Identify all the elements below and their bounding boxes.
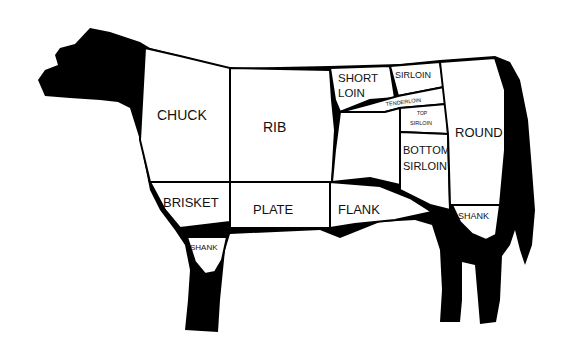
cut-top-sirloin[interactable]: TOP SIRLOIN — [400, 104, 448, 134]
cut-label-flank: FLANK — [338, 202, 380, 217]
cut-label-plate: PLATE — [253, 202, 294, 217]
cut-unlabeled-loin[interactable] — [332, 108, 400, 185]
cut-label-rib: RIB — [263, 119, 286, 135]
cut-label-top-sirloin-1: TOP — [417, 110, 428, 116]
cut-label-short-loin-1: SHORT — [338, 72, 378, 84]
cut-round[interactable]: ROUND — [440, 58, 505, 205]
cut-label-bottom-sirloin-2: SIRLOIN — [403, 160, 447, 172]
cut-label-hind-shank: SHANK — [458, 211, 489, 221]
cut-rib[interactable]: RIB — [230, 68, 335, 182]
cut-label-short-loin-2: LOIN — [338, 87, 365, 99]
beef-cuts-diagram: CHUCK RIB SHORT LOIN SIRLOIN TENDERLOIN … — [0, 0, 567, 360]
cut-label-sirloin: SIRLOIN — [395, 70, 431, 80]
cut-label-top-sirloin-2: SIRLOIN — [410, 120, 432, 126]
cut-brisket[interactable]: BRISKET — [150, 182, 230, 228]
cut-chuck[interactable]: CHUCK — [140, 48, 230, 182]
cut-label-brisket: BRISKET — [163, 195, 219, 210]
cut-label-bottom-sirloin-1: BOTTOM — [403, 144, 450, 156]
cut-plate[interactable]: PLATE — [230, 182, 330, 228]
cut-label-fore-shank: SHANK — [190, 243, 218, 252]
cut-label-chuck: CHUCK — [157, 107, 207, 123]
cut-label-round: ROUND — [455, 125, 503, 140]
